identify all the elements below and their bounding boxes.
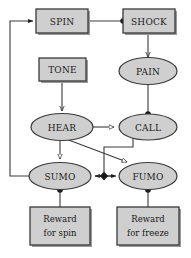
node-label-shock: SHOCK: [131, 17, 167, 27]
node-label-reward-freeze-line2: for freeze: [127, 228, 169, 238]
filled-diamond-hub: [100, 172, 108, 181]
node-fumo[interactable]: FUMO: [119, 163, 177, 190]
node-spin[interactable]: SPIN: [36, 9, 90, 35]
node-pain[interactable]: PAIN: [119, 58, 177, 85]
node-label-spin: SPIN: [50, 17, 74, 27]
network-diagram: SPIN SHOCK TONE PAIN HEAR CALL: [0, 0, 191, 258]
edge-reward-freeze-to-fumo: [145, 187, 151, 207]
node-label-reward-spin-line2: for spin: [43, 228, 77, 238]
edge-reward-spin-to-sumo: [57, 187, 63, 207]
node-shock[interactable]: SHOCK: [123, 9, 177, 35]
node-label-reward-freeze-line1: Reward: [131, 214, 165, 224]
node-label-tone: TONE: [48, 65, 77, 75]
node-call[interactable]: CALL: [119, 114, 177, 140]
node-reward-freeze[interactable]: Reward for freeze: [117, 207, 181, 247]
node-label-reward-spin-line1: Reward: [43, 214, 77, 224]
node-hear[interactable]: HEAR: [31, 114, 93, 141]
node-sumo[interactable]: SUMO: [29, 163, 91, 190]
edge-hear-to-fumo: [66, 139, 127, 162]
node-label-pain: PAIN: [136, 67, 160, 77]
edge-pain-to-call: [145, 85, 151, 117]
node-label-call: CALL: [135, 123, 161, 133]
node-label-sumo: SUMO: [44, 172, 75, 182]
node-reward-spin[interactable]: Reward for spin: [30, 207, 92, 247]
node-tone[interactable]: TONE: [39, 58, 88, 83]
edge-sumo-to-spin-feedback: [10, 21, 33, 176]
edge-spin-to-shock: [88, 18, 126, 23]
edge-sumo-fumo-bidirectional: [95, 172, 116, 181]
node-label-hear: HEAR: [48, 123, 77, 133]
node-label-fumo: FUMO: [132, 172, 163, 182]
diagram-canvas: SPIN SHOCK TONE PAIN HEAR CALL: [0, 0, 191, 258]
